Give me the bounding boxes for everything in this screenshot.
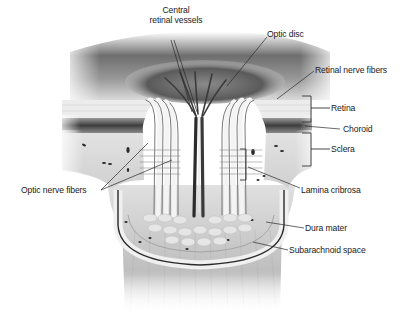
label-subarachnoid-space: Subarachnoid space (289, 245, 366, 255)
diagram-illustration (0, 0, 419, 313)
label-dura-mater: Dura mater (305, 223, 347, 233)
label-retinal-nerve-fibers: Retinal nerve fibers (315, 65, 387, 75)
label-optic-disc: Optic disc (267, 29, 304, 39)
label-lamina-cribrosa: Lamina cribrosa (301, 185, 361, 195)
label-central-retinal-vessels-line2: retinal vessels (148, 15, 204, 25)
label-sclera: Sclera (331, 144, 355, 154)
sclera-layer (55, 130, 323, 188)
vitreous-background (60, 30, 340, 105)
label-optic-nerve-fibers: Optic nerve fibers (21, 185, 87, 195)
label-central-retinal-vessels-line1: Central (148, 5, 204, 15)
label-central-retinal-vessels: Central retinal vessels (148, 5, 204, 25)
label-choroid: Choroid (343, 124, 372, 134)
optic-nerve-diagram: Central retinal vessels Optic disc Retin… (0, 0, 419, 313)
label-retina: Retina (331, 103, 355, 113)
